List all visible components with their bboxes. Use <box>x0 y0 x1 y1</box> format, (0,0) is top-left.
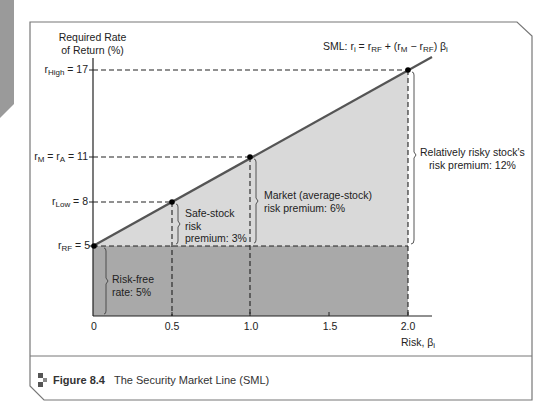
x-tick-0-5: 0.5 <box>165 320 180 332</box>
figure-caption: Figure 8.4The Security Market Line (SML) <box>53 374 269 386</box>
y-label-low: rLow = 8 <box>52 195 88 208</box>
annotation-risky: Relatively risky stock's risk premium: 1… <box>420 146 525 171</box>
x-tick-2-0: 2.0 <box>401 320 416 332</box>
y-label-riskfree: rRF = 5 <box>58 239 90 252</box>
x-axis-title: Risk, βi <box>401 336 435 349</box>
point-risk-free <box>91 243 97 249</box>
x-tick-1-5: 1.5 <box>323 320 338 332</box>
y-label-market: rM = rA = 11 <box>34 150 88 163</box>
x-tick-0: 0 <box>91 320 97 332</box>
point-high <box>405 67 411 73</box>
point-low <box>169 199 175 205</box>
point-market <box>247 154 253 160</box>
annotation-market: Market (average-stock) risk premium: 6% <box>264 189 372 214</box>
annotation-risk-free: Risk-free rate: 5% <box>112 273 154 298</box>
y-axis-title: Required Rate of Return (%) <box>55 31 130 57</box>
y-label-high: rHigh = 17 <box>44 63 88 76</box>
x-tick-1-0: 1.0 <box>244 320 259 332</box>
annotation-safe-stock: Safe-stock risk premium: 3% <box>185 207 247 245</box>
sml-equation: SML: ri = rRF + (rM − rRF) βi <box>323 40 448 53</box>
figure-title: The Security Market Line (SML) <box>114 374 269 386</box>
figure-number: Figure 8.4 <box>53 374 105 386</box>
